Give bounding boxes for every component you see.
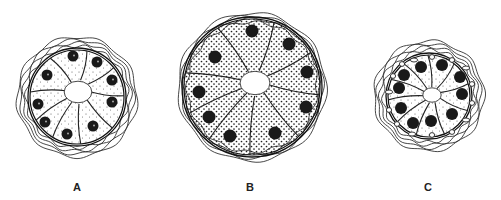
cell-nucleus	[301, 66, 314, 79]
cell-nucleus	[107, 97, 118, 108]
secretory-vacuole	[385, 90, 392, 94]
panel-label-b: B	[246, 181, 254, 193]
nucleolus	[47, 74, 49, 76]
cell-nucleus	[42, 70, 53, 81]
nucleolus	[73, 55, 75, 57]
cell-nucleus	[283, 38, 296, 51]
secretory-vacuole	[408, 132, 415, 136]
cell-nucleus	[269, 127, 282, 140]
cell-nucleus	[224, 130, 237, 143]
secretory-vacuole	[394, 122, 399, 127]
panel-a	[16, 38, 138, 159]
cell-nucleus	[454, 71, 466, 83]
nucleolus	[93, 125, 95, 127]
cell-nucleus	[68, 51, 79, 62]
panel-label-a: A	[73, 181, 81, 193]
cell-nucleus	[446, 108, 458, 120]
secretory-vacuole	[462, 66, 469, 70]
cell-nucleus	[398, 69, 410, 81]
cell-nucleus	[88, 121, 99, 132]
lumen	[240, 71, 270, 94]
cell-nucleus	[415, 61, 427, 73]
secretory-vacuole	[469, 82, 474, 87]
nucleolus	[45, 121, 47, 123]
nucleolus	[112, 101, 114, 103]
lumen	[64, 81, 92, 103]
cell-nucleus	[33, 99, 44, 110]
cell-nucleus	[393, 82, 405, 94]
secretory-vacuole	[462, 118, 469, 122]
cell-nucleus	[456, 88, 468, 100]
secretory-vacuole	[429, 55, 434, 60]
cell-nucleus	[425, 115, 437, 127]
nucleolus	[97, 61, 99, 63]
cell-nucleus	[62, 129, 73, 140]
secretory-vacuole	[429, 133, 434, 138]
panel-label-c: C	[424, 181, 432, 193]
secretory-vacuole	[399, 62, 404, 67]
cell-nucleus	[40, 117, 51, 128]
secretory-vacuole	[469, 101, 474, 106]
cell-nucleus	[203, 111, 216, 124]
cell-nucleus	[92, 57, 103, 68]
nucleolus	[38, 103, 40, 105]
cell-nucleus	[395, 102, 407, 114]
panel-b	[178, 13, 327, 163]
cell-nucleus	[209, 51, 222, 64]
panel-c	[374, 40, 485, 152]
cell-nucleus	[436, 59, 448, 71]
cell-nucleus	[193, 86, 206, 99]
secretory-vacuole	[449, 58, 454, 63]
secretory-vacuole	[410, 58, 417, 62]
cell-nucleus	[107, 75, 118, 86]
cell-nucleus	[407, 117, 419, 129]
lumen	[423, 88, 441, 102]
nucleolus	[112, 79, 114, 81]
acinus-cross-section-figure: ABC	[0, 0, 501, 200]
nucleolus	[67, 133, 69, 135]
cell-nucleus	[246, 25, 259, 38]
secretory-vacuole	[386, 108, 391, 113]
secretory-vacuole	[390, 74, 395, 79]
cell-nucleus	[300, 101, 313, 114]
secretory-vacuole	[449, 130, 454, 135]
